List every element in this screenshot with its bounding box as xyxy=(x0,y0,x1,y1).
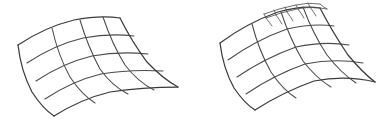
refinement-col-2 xyxy=(276,15,282,24)
left-mesh-boundary-bottom xyxy=(54,87,178,116)
right-mesh-refinement-block xyxy=(264,3,327,26)
left-mesh-panel xyxy=(18,17,178,116)
refinement-col-5 xyxy=(310,7,316,16)
mesh-figure-svg xyxy=(0,0,387,127)
right-mesh-panel xyxy=(220,3,375,110)
right-mesh-v-curves xyxy=(220,7,375,110)
refinement-col-1 xyxy=(266,18,272,26)
right-mesh-u-curve-2 xyxy=(237,43,349,77)
refinement-col-4 xyxy=(298,9,304,18)
left-mesh-v-curve-1 xyxy=(52,28,95,103)
left-mesh-u-curves xyxy=(18,17,178,116)
right-mesh-boundary-bottom xyxy=(255,78,375,110)
refinement-col-3 xyxy=(287,12,293,21)
figure-root xyxy=(0,0,387,127)
right-mesh-u-curve-1 xyxy=(228,25,334,60)
right-mesh-u-curve-3 xyxy=(246,61,363,94)
